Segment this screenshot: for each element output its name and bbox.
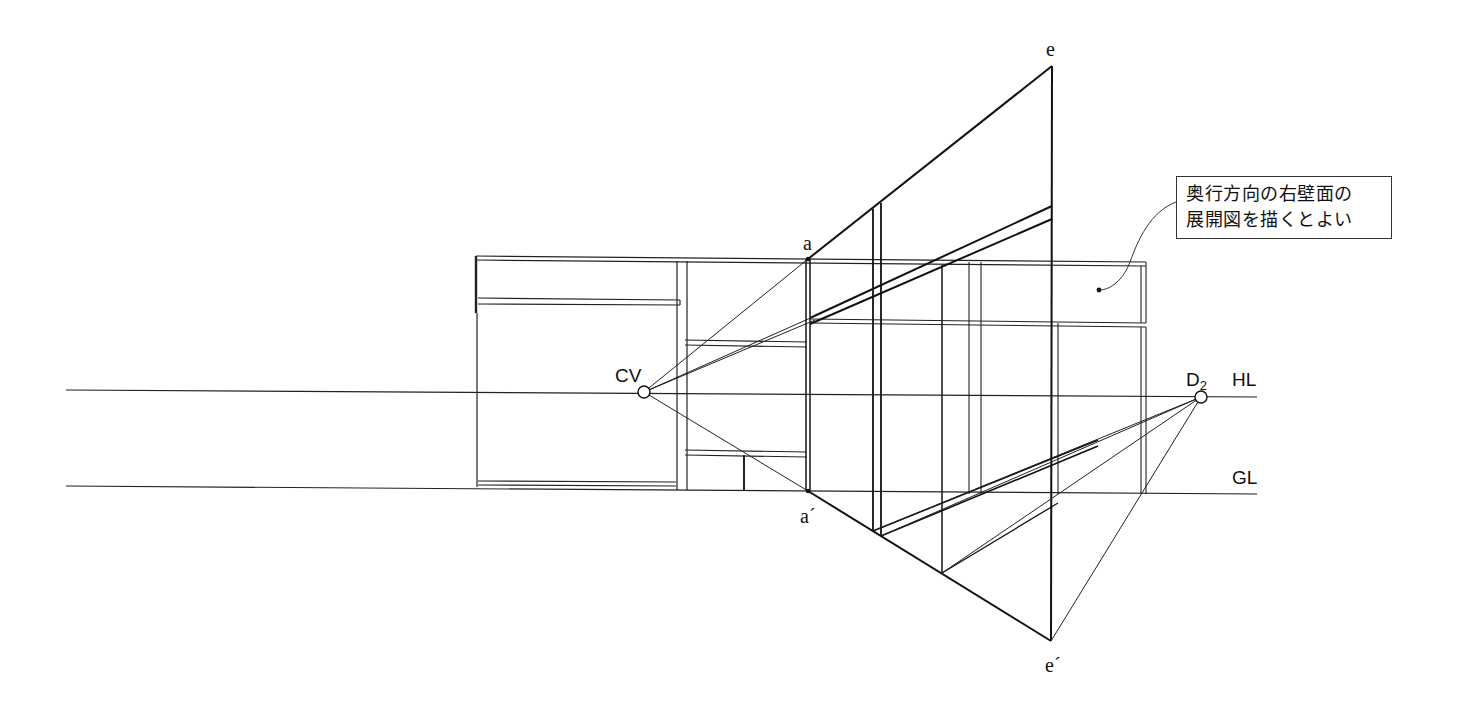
unfolded-wall-construction	[808, 66, 1098, 641]
a-point-dot	[806, 257, 810, 261]
perspective-diagram: CV D2 HL GL a a´ e e´	[0, 0, 1460, 719]
line-a-e	[808, 66, 1052, 259]
note-line-2: 展開図を描くとよい	[1186, 207, 1391, 233]
d2-label: D2	[1186, 369, 1207, 393]
reference-lines	[66, 390, 1257, 494]
ground-line	[66, 486, 1257, 494]
e-label: e	[1046, 38, 1055, 60]
note-line-1: 奥行方向の右壁面の	[1186, 181, 1391, 207]
note-leader-line	[1099, 202, 1176, 290]
cv-point-marker	[638, 386, 650, 398]
aprime-point-dot	[806, 489, 810, 493]
annotation-note: 奥行方向の右壁面の 展開図を描くとよい	[1176, 176, 1392, 239]
line-e-eprime	[1051, 66, 1052, 641]
hl-label: HL	[1232, 369, 1256, 390]
right-wall-elevation	[810, 262, 1146, 573]
gl-label: GL	[1232, 467, 1257, 488]
a-label: a	[803, 232, 812, 254]
front-wall-elevation	[476, 256, 1146, 491]
horizon-line	[66, 390, 1257, 397]
line-aprime-eprime	[808, 491, 1051, 641]
aprime-label: a´	[800, 505, 816, 527]
cv-label: CV	[615, 365, 642, 386]
eprime-label: e´	[1045, 654, 1061, 676]
